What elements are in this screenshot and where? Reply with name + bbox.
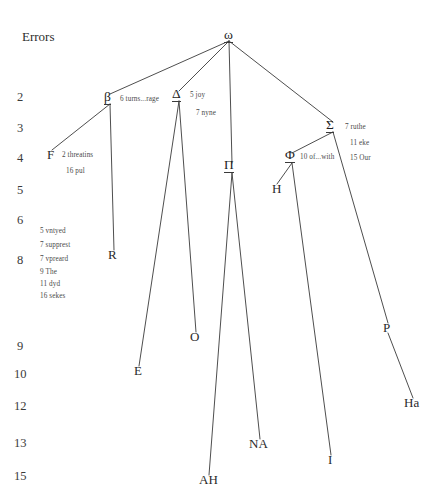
stemma-node-AH[interactable]: AH — [199, 473, 218, 486]
variant-note-beta-lower3: 7 vpreard — [40, 256, 68, 263]
error-scale-tick: 9 — [17, 340, 23, 353]
error-scale-tick: 12 — [14, 400, 27, 413]
page-title: Errors — [22, 30, 55, 43]
error-scale-tick: 15 — [14, 470, 27, 483]
stemma-edges-layer — [0, 0, 445, 500]
variant-note-f-note2: 16 pul — [66, 168, 85, 175]
variant-note-sigma-note3: 15 Our — [350, 155, 371, 162]
stemma-node-E[interactable]: E — [134, 364, 142, 377]
stemma-node-omega[interactable]: ω — [224, 28, 233, 43]
stemma-node-F[interactable]: F — [47, 148, 54, 161]
stemma-node-beta[interactable]: β — [104, 90, 111, 105]
error-scale-tick: 2 — [17, 91, 23, 104]
variant-note-delta-note1: 5 joy — [190, 92, 205, 99]
stemma-node-O[interactable]: O — [190, 330, 199, 343]
variant-note-sigma-note1: 7 ruthe — [345, 124, 366, 131]
stemma-node-R[interactable]: R — [108, 248, 117, 261]
stemma-node-H[interactable]: H — [272, 182, 281, 195]
error-scale-tick: 4 — [17, 152, 23, 165]
variant-note-delta-note2: 7 nyne — [196, 110, 216, 117]
variant-note-beta-lower5: 11 dyd — [40, 281, 60, 288]
stemma-edge-omega-pi — [229, 41, 232, 163]
stemma-edge-beta-F — [52, 104, 110, 150]
stemma-edge-pi-AH — [209, 173, 232, 475]
error-scale-tick: 6 — [17, 214, 23, 227]
variant-note-beta-lower2: 7 supprest — [40, 242, 70, 249]
stemma-diagram-canvas: Errors 234568910121315 ωβΔΠΣΦFREOAHNAHIP… — [0, 0, 445, 500]
stemma-node-delta[interactable]: Δ — [172, 87, 181, 102]
variant-note-sigma-note2: 11 eke — [350, 140, 369, 147]
variant-note-beta-lower6: 16 sekes — [40, 293, 65, 300]
stemma-node-NA[interactable]: NA — [249, 437, 268, 450]
stemma-node-pi[interactable]: Π — [224, 158, 234, 173]
error-scale-tick: 10 — [14, 368, 27, 381]
variant-note-beta-note: 6 turns...rage — [120, 96, 159, 103]
stemma-edge-phi-I — [292, 163, 331, 455]
variant-note-phi-note: 10 of...with — [300, 154, 334, 161]
error-scale-tick: 13 — [14, 437, 27, 450]
error-scale-tick: 8 — [17, 254, 23, 267]
stemma-node-Ha[interactable]: Ha — [404, 396, 419, 409]
stemma-edge-pi-NA — [232, 173, 260, 439]
stemma-edge-delta-E — [139, 101, 179, 366]
stemma-edge-omega-delta — [179, 41, 229, 91]
variant-note-f-note1: 2 threatins — [62, 152, 93, 159]
stemma-edge-beta-R — [110, 104, 114, 250]
stemma-edge-sigma-phi — [292, 132, 333, 153]
variant-note-beta-lower1: 5 vntyed — [40, 228, 66, 235]
stemma-node-phi[interactable]: Φ — [285, 148, 295, 163]
stemma-node-I[interactable]: I — [328, 453, 332, 466]
variant-note-beta-lower4: 9 The — [40, 269, 57, 276]
stemma-node-sigma[interactable]: Σ — [326, 118, 334, 133]
stemma-edge-omega-beta — [110, 41, 229, 94]
error-scale-tick: 5 — [17, 184, 23, 197]
error-scale-tick: 3 — [17, 122, 23, 135]
stemma-edge-delta-O — [179, 101, 196, 332]
stemma-node-P[interactable]: P — [383, 321, 390, 334]
stemma-edge-P-Ha — [388, 333, 413, 398]
stemma-edge-omega-sigma — [229, 41, 333, 122]
